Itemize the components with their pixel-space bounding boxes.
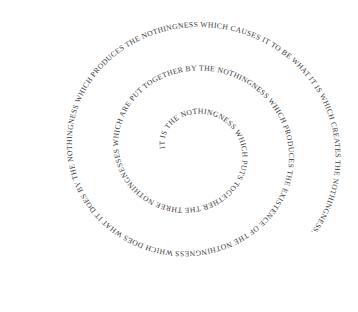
spiral-text: IT IS THE NOTHINGNESS WHICH PUTS TOGETHE… bbox=[65, 20, 343, 258]
spiral-text-path: IT IS THE NOTHINGNESS WHICH PUTS TOGETHE… bbox=[65, 20, 343, 258]
spiral-text-artwork: IT IS THE NOTHINGNESS WHICH PUTS TOGETHE… bbox=[0, 0, 358, 312]
